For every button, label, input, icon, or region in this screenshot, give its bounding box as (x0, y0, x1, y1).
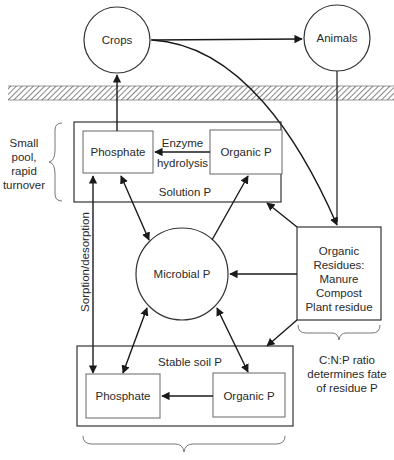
stable-phosphate-label: Phosphate (86, 389, 160, 403)
stable-soil-p-label: Stable soil P (150, 355, 230, 369)
cnp-ratio-annotation: C:N:P ratio determines fate of residue P (306, 353, 388, 395)
sorption-desorption-label: Sorption/desorption (78, 202, 92, 322)
small-pool-annotation: Small pool, rapid turnover (0, 136, 48, 192)
solution-organic-p-label: Organic P (210, 145, 282, 159)
arrow-microbial-stable-phosphate (123, 308, 147, 373)
residues-brace (298, 325, 380, 340)
animals-label: Animals (311, 31, 363, 45)
solution-p-label: Solution P (155, 185, 215, 199)
organic-residues-label: Organic Residues: Manure Compost Plant r… (297, 244, 381, 314)
microbial-p-label: Microbial P (146, 267, 218, 281)
soil-surface-hatch (8, 86, 394, 100)
enzyme-label-line2: hydrolysis (155, 156, 210, 170)
arrow-microbial-organic (212, 176, 248, 240)
stable-pool-brace (83, 436, 285, 452)
solution-phosphate-label: Phosphate (83, 145, 153, 159)
crops-label: Crops (97, 33, 137, 47)
arrow-residues-stable (267, 320, 297, 346)
arrow-phosphate-microbial (121, 176, 149, 240)
arrow-residues-solution (267, 203, 297, 227)
enzyme-label-line1: Enzyme (155, 136, 210, 150)
small-pool-brace (49, 123, 62, 201)
arrow-crops-animals (151, 39, 302, 40)
stable-organic-p-label: Organic P (213, 389, 285, 403)
